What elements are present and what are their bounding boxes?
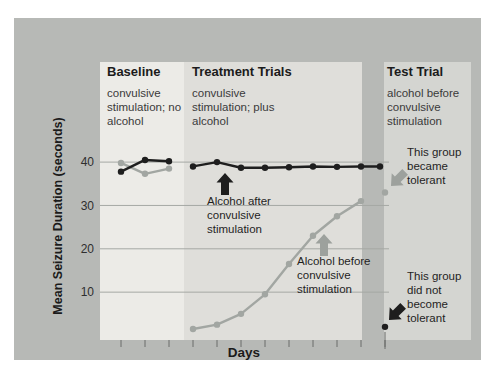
black-series-treatment-point bbox=[377, 163, 383, 169]
phase-title-baseline: Baseline bbox=[107, 64, 187, 79]
phase-header-treatment: Treatment Trials convulsive stimulation;… bbox=[192, 64, 296, 128]
y-tick-10: 10 bbox=[64, 285, 94, 299]
phase-header-test: Test Trial alcohol before convulsive sti… bbox=[387, 64, 469, 128]
annotation-became-tolerant: This group became tolerant bbox=[407, 145, 477, 187]
phase-title-treatment: Treatment Trials bbox=[192, 64, 296, 79]
annotation-alcohol-before: Alcohol before convulsive stimulation bbox=[297, 254, 389, 296]
y-tick-40: 40 bbox=[64, 155, 94, 169]
x-axis-label: Days bbox=[194, 345, 294, 360]
y-tick-20: 20 bbox=[64, 242, 94, 256]
y-axis-label: Mean Seizure Duration (seconds) bbox=[51, 117, 65, 314]
figure: Mean Seizure Duration (seconds) 40 30 20… bbox=[0, 0, 498, 376]
phase-header-baseline: Baseline convulsive stimulation; no alco… bbox=[107, 64, 187, 128]
y-tick-30: 30 bbox=[64, 199, 94, 213]
figure-panel: Mean Seizure Duration (seconds) 40 30 20… bbox=[14, 18, 481, 360]
phase-title-test: Test Trial bbox=[387, 64, 469, 79]
phase-desc-baseline: convulsive stimulation; no alcohol bbox=[107, 86, 187, 128]
phase-desc-treatment: convulsive stimulation; plus alcohol bbox=[192, 86, 296, 128]
annotation-did-not-become-tolerant: This group did not become tolerant bbox=[407, 269, 479, 325]
annotation-alcohol-after: Alcohol after convulsive stimulation bbox=[207, 194, 289, 236]
phase-desc-test: alcohol before convulsive stimulation bbox=[387, 86, 469, 128]
